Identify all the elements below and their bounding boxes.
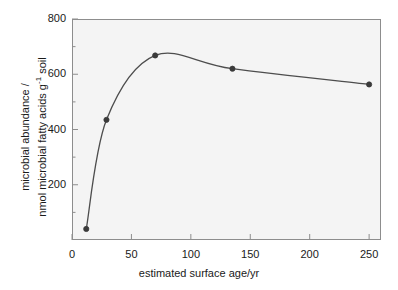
x-tick-label: 150 (230, 249, 270, 260)
x-axis-label: estimated surface age/yr (0, 267, 398, 279)
x-tick-label: 100 (171, 249, 211, 260)
x-tick-label: 50 (111, 249, 151, 260)
y-axis-label-line2-suffix: soil (36, 57, 48, 77)
x-tick-label: 200 (290, 249, 330, 260)
x-tick-label: 250 (349, 249, 389, 260)
y-axis-label-line1: microbial abundance / (19, 22, 32, 252)
y-axis-label-exponent: -1 (34, 77, 43, 84)
y-axis-label: microbial abundance / nmol microbial fat… (19, 22, 49, 252)
y-axis-label-line2: nmol microbial fatty acids g-1 soil (32, 22, 49, 252)
x-tick-label: 0 (52, 249, 92, 260)
plot-area (72, 19, 381, 240)
y-axis-label-line2-prefix: nmol microbial fatty acids g (36, 84, 48, 217)
figure-container: 200400600800 050100150200250 estimated s… (0, 0, 398, 290)
